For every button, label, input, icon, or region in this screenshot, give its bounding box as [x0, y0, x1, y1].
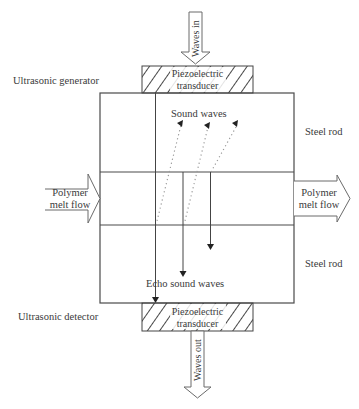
- polymer-outflow-arrow: Polymer melt flow: [294, 175, 350, 222]
- top-transducer-label-2: transducer: [177, 80, 219, 91]
- waves-in-arrow: Waves in: [181, 12, 210, 64]
- bottom-transducer-label-1: Piezoelectric: [172, 306, 224, 317]
- steel-rod-body: [100, 93, 294, 303]
- ultrasonic-generator-label: Ultrasonic generator: [13, 75, 100, 86]
- sound-waves-label: Sound waves: [171, 108, 227, 119]
- bottom-transducer-label-2: transducer: [177, 318, 219, 329]
- bottom-transducer: Piezoelectric transducer: [142, 303, 253, 331]
- polymer-in-label-2: melt flow: [50, 199, 91, 210]
- steel-rod-top-label: Steel rod: [305, 126, 343, 137]
- polymer-out-label-1: Polymer: [301, 187, 337, 198]
- waves-out-arrow: Waves out: [184, 331, 211, 398]
- polymer-out-label-2: melt flow: [299, 199, 340, 210]
- arrowhead-icon: [180, 271, 187, 277]
- waves-out-label: Waves out: [192, 339, 203, 381]
- polymer-in-label-1: Polymer: [52, 187, 88, 198]
- arrowhead-icon: [232, 120, 238, 127]
- arrowhead-icon: [152, 297, 159, 303]
- arrowhead-icon: [207, 244, 214, 250]
- echo-sound-waves-label: Echo sound waves: [146, 278, 224, 289]
- waves-in-label: Waves in: [190, 20, 201, 57]
- transmitted-sound-waves: [152, 93, 214, 303]
- ultrasonic-measurement-diagram: Waves in Piezoelectric transducer Ultras…: [0, 0, 359, 409]
- steel-rod-bottom-label: Steel rod: [305, 258, 343, 269]
- polymer-inflow-arrow: Polymer melt flow: [45, 174, 100, 223]
- ultrasonic-detector-label: Ultrasonic detector: [18, 311, 99, 322]
- top-transducer: Piezoelectric transducer: [142, 66, 253, 93]
- arrowhead-icon: [177, 120, 183, 127]
- top-transducer-label-1: Piezoelectric: [172, 68, 224, 79]
- arrowhead-icon: [204, 122, 210, 129]
